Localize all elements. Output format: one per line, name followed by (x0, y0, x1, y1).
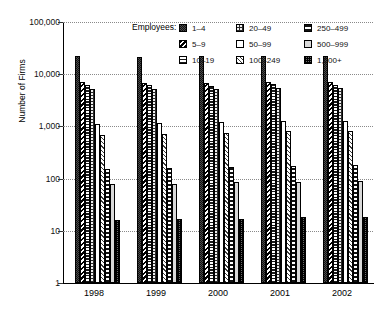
legend-item[interactable]: 500–999 (304, 36, 348, 52)
legend-item[interactable]: 10–19 (179, 52, 214, 68)
legend-item-label: 20–49 (249, 24, 271, 33)
legend-column-1: 1–45–910–19 (179, 20, 214, 68)
bar (239, 219, 244, 283)
x-axis-tick-label: 2001 (255, 288, 305, 298)
legend-swatch-icon (236, 56, 244, 64)
legend-item-label: 1,000+ (317, 56, 342, 65)
y-axis-tick (58, 231, 63, 232)
bar (177, 219, 182, 283)
legend-swatch-icon (304, 56, 312, 64)
legend-swatch-icon (179, 24, 187, 32)
y-axis-tick-label: 1,000 (39, 122, 60, 131)
legend-swatch-icon (236, 40, 244, 48)
legend-swatch-icon (236, 24, 244, 32)
x-axis-tick-label: 1998 (69, 288, 119, 298)
legend-swatch-icon (304, 24, 312, 32)
legend-item-label: 10–19 (192, 56, 214, 65)
legend-item[interactable]: 1–4 (179, 20, 214, 36)
y-axis-tick-label: 10,000 (34, 70, 60, 79)
legend-item-label: 500–999 (317, 40, 348, 49)
legend-item[interactable]: 1,000+ (304, 52, 348, 68)
y-axis-tick-label: 100,000 (29, 18, 60, 27)
legend-item[interactable]: 100–249 (236, 52, 280, 68)
y-axis-tick-labels: 100,00010,0001,000100101 (0, 22, 60, 284)
legend-column-2: 20–4950–99100–249 (236, 20, 280, 68)
x-axis-tick-label: 2000 (193, 288, 243, 298)
x-axis-tick-label: 2002 (317, 288, 367, 298)
bar (363, 217, 368, 283)
bar (115, 220, 120, 283)
legend-swatch-icon (179, 40, 187, 48)
legend-item-label: 250–499 (317, 24, 348, 33)
legend-item-label: 1–4 (192, 24, 205, 33)
legend-title: Employees: (132, 22, 176, 32)
legend-column-3: 250–499500–9991,000+ (304, 20, 348, 68)
x-axis-line (63, 283, 374, 284)
bar-chart: Number of Firms 100,00010,0001,000100101… (0, 0, 385, 319)
legend-item[interactable]: 250–499 (304, 20, 348, 36)
legend-item[interactable]: 20–49 (236, 20, 280, 36)
legend-item[interactable]: 5–9 (179, 36, 214, 52)
legend-swatch-icon (304, 40, 312, 48)
legend-swatch-icon (179, 56, 187, 64)
y-axis-tick (58, 74, 63, 75)
legend-item[interactable]: 50–99 (236, 36, 280, 52)
legend: Employees: 1–45–910–19 20–4950–99100–249… (132, 20, 382, 70)
y-axis-tick (58, 179, 63, 180)
bar (301, 217, 306, 283)
legend-item-label: 50–99 (249, 40, 271, 49)
y-axis-tick (58, 22, 63, 23)
y-axis-tick (58, 126, 63, 127)
legend-item-label: 5–9 (192, 40, 205, 49)
legend-item-label: 100–249 (249, 56, 280, 65)
y-axis-tick (58, 283, 63, 284)
bar-group (75, 22, 120, 283)
x-axis-tick-label: 1999 (131, 288, 181, 298)
